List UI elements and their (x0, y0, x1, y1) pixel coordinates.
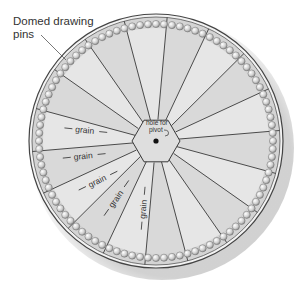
domed-pin (238, 58, 245, 65)
domed-pin (226, 228, 233, 235)
domed-pin (79, 47, 86, 54)
domed-pin (248, 205, 255, 212)
domed-pin (176, 252, 183, 259)
domed-pin (49, 84, 56, 91)
svg-text:grain: grain (73, 150, 93, 162)
domed-pin (38, 161, 45, 168)
circular-board: graingraingraingraingrain hole for pivot (0, 0, 301, 281)
domed-pin (226, 47, 233, 54)
domed-pin (252, 77, 259, 84)
domed-pin (92, 237, 99, 244)
domed-pin (269, 129, 276, 136)
domed-pin (42, 98, 49, 105)
domed-pin (256, 84, 263, 91)
domed-pin (213, 37, 220, 44)
domed-pin (79, 228, 86, 235)
domed-pin (99, 241, 106, 248)
domed-pin (62, 211, 69, 218)
hole-label-line1: hole for (146, 119, 169, 126)
domed-pin (52, 77, 59, 84)
domed-pin (268, 153, 275, 160)
domed-pin (35, 137, 42, 144)
domed-pin (267, 161, 274, 168)
domed-pin (42, 177, 49, 184)
hole-label-line2: pivot (149, 126, 163, 134)
domed-pin (220, 42, 227, 49)
svg-text:grain: grain (75, 124, 95, 136)
domed-pin (168, 21, 175, 28)
domed-pin (67, 58, 74, 65)
domed-pin (40, 106, 47, 113)
domed-pin (160, 21, 167, 28)
domed-pin (263, 177, 270, 184)
domed-pin (243, 64, 250, 71)
domed-pin (238, 217, 245, 224)
svg-text:grain: grain (137, 199, 149, 219)
domed-pin (45, 184, 52, 191)
domed-pin (106, 245, 113, 252)
domed-pin (260, 184, 267, 191)
pivot-hole (153, 138, 158, 143)
domed-pin (38, 114, 45, 121)
domed-pin (129, 252, 136, 259)
domed-pin (144, 254, 151, 261)
domed-pin (184, 25, 191, 32)
domed-pin (220, 233, 227, 240)
domed-pin (192, 27, 199, 34)
domed-pin (252, 198, 259, 205)
domed-pin (113, 248, 120, 255)
domed-pin (213, 237, 220, 244)
domed-pin (192, 248, 199, 255)
domed-pin (265, 169, 272, 176)
domed-pin (45, 91, 52, 98)
domed-pin (85, 42, 92, 49)
domed-pin (57, 70, 64, 77)
domed-pin (57, 205, 64, 212)
domed-pin (40, 169, 47, 176)
callout-line2: pins (13, 28, 123, 41)
domed-pin (267, 114, 274, 121)
domed-pin (136, 21, 143, 28)
domed-pin (199, 30, 206, 37)
domed-pin (36, 145, 43, 152)
domed-pin (184, 250, 191, 257)
domed-pin (144, 21, 151, 28)
domed-pin (36, 129, 43, 136)
callout-line1: Domed drawing (13, 15, 123, 28)
domed-pin (168, 253, 175, 260)
domed-pin (85, 233, 92, 240)
domed-pin (152, 20, 159, 27)
domed-pin (248, 70, 255, 77)
domed-pin (121, 250, 128, 257)
domed-pin (206, 241, 213, 248)
domed-pin (160, 254, 167, 261)
domed-pin (265, 106, 272, 113)
domed-pin (36, 153, 43, 160)
domed-pin (73, 52, 80, 59)
domed-pin (152, 254, 159, 261)
domed-pin (263, 98, 270, 105)
domed-pin (260, 91, 267, 98)
domed-pin (73, 223, 80, 230)
domed-pin (269, 137, 276, 144)
pins-callout-label: Domed drawing pins (13, 15, 123, 41)
domed-pin (36, 121, 43, 128)
domed-pin (52, 198, 59, 205)
domed-pin (268, 121, 275, 128)
domed-pin (256, 191, 263, 198)
domed-pin (232, 52, 239, 59)
domed-pin (243, 211, 250, 218)
domed-pin (199, 245, 206, 252)
diagram-canvas: graingraingraingraingrain hole for pivot… (0, 0, 301, 281)
domed-pin (62, 64, 69, 71)
domed-pin (269, 145, 276, 152)
domed-pin (176, 23, 183, 30)
domed-pin (136, 253, 143, 260)
domed-pin (67, 217, 74, 224)
domed-pin (129, 23, 136, 30)
domed-pin (206, 34, 213, 41)
domed-pin (49, 191, 56, 198)
domed-pin (232, 223, 239, 230)
